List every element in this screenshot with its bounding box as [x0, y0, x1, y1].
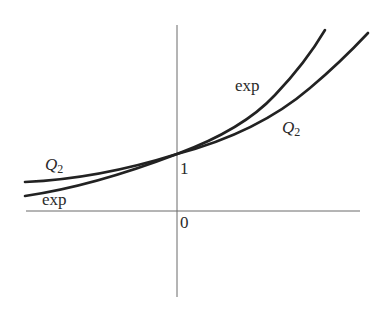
exp-label-right: exp [235, 76, 260, 95]
q2-curve [25, 33, 368, 182]
q2-label-right: Q2 [282, 118, 300, 139]
exp-label-left: exp [42, 190, 67, 209]
exp-curve [25, 30, 325, 196]
origin-label: 0 [180, 213, 189, 232]
q2-label-left: Q2 [45, 155, 63, 176]
y-intercept-label: 1 [180, 159, 189, 178]
function-plot: exp Q2 Q2 exp 1 0 [0, 0, 388, 322]
